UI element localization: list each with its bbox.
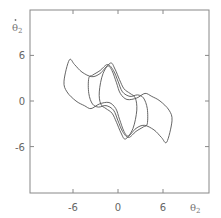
- x-tick-label: -6: [68, 202, 78, 213]
- tick-labels: -60660-6: [15, 50, 166, 213]
- y-axis-dot-accent: [15, 19, 17, 21]
- orbit-inner: [99, 63, 137, 139]
- x-axis-subscript: 2: [196, 207, 200, 215]
- y-tick-label: 6: [19, 50, 25, 61]
- x-tick-label: 6: [160, 202, 166, 213]
- orbit-curves: [64, 59, 172, 143]
- y-axis-title: θ2: [12, 22, 23, 35]
- axis-ticks: [30, 10, 209, 193]
- plot-frame: [30, 10, 209, 193]
- y-tick-label: -6: [15, 142, 25, 153]
- phase-plane-chart: -60660-6 θ2 θ2: [0, 0, 221, 218]
- orbit-outer: [64, 59, 172, 143]
- x-axis-title: θ2: [190, 202, 201, 215]
- y-axis-subscript: 2: [18, 27, 22, 35]
- y-tick-label: 0: [19, 96, 25, 107]
- x-tick-label: 0: [115, 202, 121, 213]
